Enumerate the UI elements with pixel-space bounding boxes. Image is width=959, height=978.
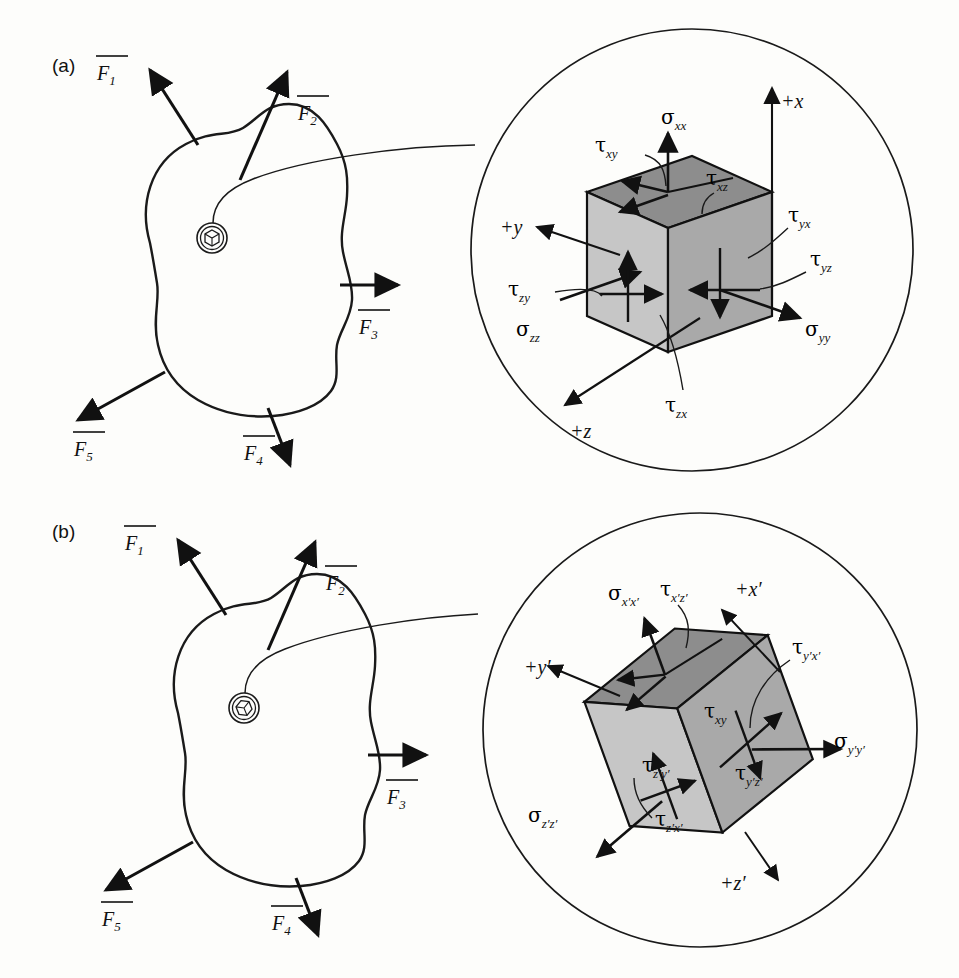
page-background xyxy=(0,0,959,978)
axis-label-plus-z: +z xyxy=(570,420,591,442)
axis-label-plus-y: +y xyxy=(500,216,522,239)
panel-b-label: (b) xyxy=(52,521,75,542)
figure-canvas: (a) F1 F2 F xyxy=(0,0,959,978)
axis-label-plus-x-prime: +x′ xyxy=(735,578,762,600)
axis-label-plus-x: +x xyxy=(781,90,803,112)
panel-a-label: (a) xyxy=(52,55,75,76)
axis-label-plus-z-prime: +z′ xyxy=(720,872,746,894)
axis-label-plus-y-prime: +y′ xyxy=(524,656,551,679)
